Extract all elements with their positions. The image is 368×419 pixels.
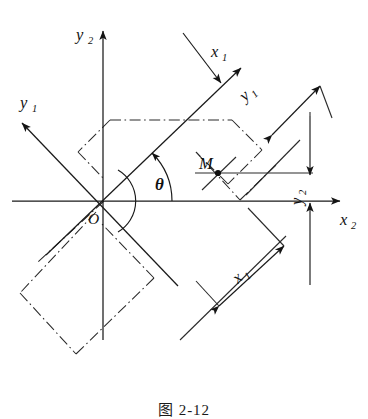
dim-x1-extension-lower: [196, 281, 219, 306]
dim-lower-right-bound: [180, 236, 286, 340]
figure-caption: 图 2-12: [0, 398, 368, 419]
axis-label-y2-base: y: [74, 25, 84, 44]
guide-upper-left-side-b: [78, 152, 105, 180]
axis-y1-line: [22, 123, 178, 286]
origin-label: O: [88, 210, 99, 227]
guide-lower-left-rect-bottom: [76, 278, 154, 354]
dim-upper-right-bound: [246, 140, 300, 195]
dim-x1-extension-upper: [248, 208, 284, 246]
axes-group: [12, 31, 340, 340]
axis-label-y2-sub: 2: [88, 35, 94, 46]
dim-y1-extension: [320, 86, 332, 118]
axis-label-y1-base: y: [18, 93, 28, 112]
dim-y1-line: [272, 86, 320, 135]
dim-label-y2-sub: 2: [297, 189, 308, 195]
guide-m-box-top: [232, 120, 262, 150]
guide-lower-left-rect-top: [20, 212, 96, 293]
guide-m-box-right: [228, 150, 262, 184]
dim-label-y1: y 1: [233, 81, 260, 108]
guide-lower-left-rect-left: [20, 293, 76, 354]
angle-theta-label: θ: [155, 175, 164, 194]
dim-label-y2-base: y: [287, 197, 306, 207]
dim-label-y1-base: y: [233, 85, 253, 106]
point-m-dot: [215, 170, 221, 176]
guide-upper-left-side-a: [78, 120, 110, 152]
axis-label-y2: y 2: [74, 25, 94, 46]
angle-theta-group: [118, 153, 172, 232]
dim-label-y2: y 2: [287, 189, 308, 207]
guide-lower-left-diagonal: [100, 222, 154, 278]
axis-label-x1-sub: 1: [222, 52, 227, 63]
axis-label-x2-base: x: [339, 210, 348, 229]
axis-label-y1: y 1: [18, 93, 37, 114]
axis-label-x1-base: x: [210, 42, 219, 61]
axis-label-x1: x 1: [210, 42, 227, 63]
construction-guides: [20, 120, 276, 354]
dimension-group: [180, 33, 332, 340]
point-m-label: M: [198, 154, 214, 173]
labels-group: y 2 x 2 x 1 y 1 O θ M: [18, 25, 357, 289]
axis-label-x2: x 2: [339, 210, 357, 231]
dim-x1-line: [219, 246, 284, 306]
dim-label-x1: x 1: [227, 263, 253, 289]
axis-label-x2-sub: 2: [351, 220, 357, 231]
axis-label-y1-sub: 1: [32, 103, 37, 114]
